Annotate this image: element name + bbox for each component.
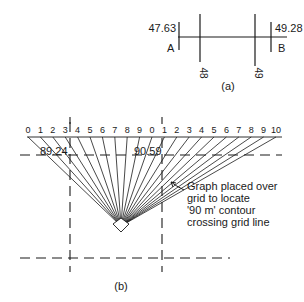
grid-label-48: 48 [198,67,209,79]
value-left-89-24: 89.24 [40,145,68,157]
annotation-line-2: grid to locate [187,192,250,204]
caption-a: (a) [221,80,234,92]
point-a-label: A [167,42,175,54]
fan-line [78,137,121,226]
scale-label: 5 [87,125,92,135]
annotation-line-1: Graph placed over [187,180,278,192]
point-a-value: 47.63 [148,22,176,34]
contour-interpolation-diagram: 47.63 A 49.28 B 48 49 (a) 01234567890123… [0,0,304,302]
annotation-line-3: '90 m' contour [187,204,256,216]
point-b-label: B [278,42,285,54]
scale-label: 0 [149,125,154,135]
scale-label: 9 [261,125,266,135]
scale-label: 2 [50,125,55,135]
scale-labels: 0123456789012345678910 [25,125,281,135]
scale-label: 3 [63,125,68,135]
fan-line [65,137,121,226]
scale-label: 8 [125,125,130,135]
part-a-diagram [178,14,287,66]
scale-label: 1 [38,125,43,135]
scale-label: 7 [236,125,241,135]
scale-label: 4 [199,125,204,135]
scale-label: 2 [174,125,179,135]
scale-label: 0 [25,125,30,135]
scale-label: 6 [224,125,229,135]
scale-label: 8 [249,125,254,135]
scale-label: 1 [162,125,167,135]
scale-label: 10 [271,125,281,135]
scale-label: 9 [137,125,142,135]
point-b-value: 49.28 [275,22,303,34]
scale-label: 7 [112,125,117,135]
scale-label: 3 [187,125,192,135]
annotation-line-4: crossing grid line [187,216,270,228]
value-right-90-59: 90.59 [134,145,162,157]
scale-label: 5 [211,125,216,135]
grid-label-49: 49 [253,67,264,79]
scale-label: 4 [75,125,80,135]
scale-label: 6 [100,125,105,135]
caption-b: (b) [114,280,127,292]
